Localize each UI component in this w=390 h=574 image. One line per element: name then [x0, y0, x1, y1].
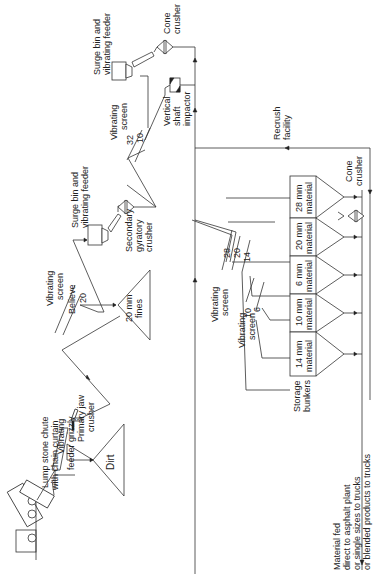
- vsi-label-1: Vertical: [162, 96, 172, 126]
- secondary-label-1: Secondary: [124, 208, 134, 252]
- bunker-28mm: 28 mm material: [294, 182, 314, 214]
- svg-text:20 mm: 20 mm: [294, 222, 304, 250]
- screen2-deck-bottom: 10: [135, 133, 145, 143]
- svg-text:14 mm: 14 mm: [294, 340, 304, 368]
- svg-text:direct to asphalt plant: direct to asphalt plant: [342, 484, 352, 570]
- storage-label-2: bunkers: [302, 379, 312, 412]
- vibrating-screen-4: [246, 278, 264, 310]
- svg-text:10 mm: 10 mm: [294, 298, 304, 326]
- output-note: Material fed direct to asphalt plant or …: [332, 453, 372, 570]
- screen3-deck-2: 20: [232, 248, 242, 258]
- svg-text:material: material: [304, 182, 314, 214]
- surge2-label-1: Surge bin and: [92, 19, 102, 75]
- svg-text:or blended products to trucks: or blended products to trucks: [362, 453, 372, 570]
- svg-text:or single sizes to trucks: or single sizes to trucks: [352, 476, 362, 570]
- bunker-20mm: 20 mm material: [294, 222, 314, 254]
- screen4-label-2: screen: [247, 313, 257, 340]
- svg-text:material: material: [304, 222, 314, 254]
- jaw-label-1: Primary jaw: [76, 394, 86, 442]
- svg-text:material: material: [304, 298, 314, 330]
- screen2-label-1: Vibrating: [109, 105, 119, 140]
- flow-diagram: Dirt Believe 20 Vibrating screen 20 mm f…: [0, 0, 390, 574]
- storage-label-1: Storage: [292, 380, 302, 412]
- lump-chute-label-1: Lump stone chute: [40, 416, 50, 488]
- vertical-shaft-impactor-icon: [170, 78, 180, 92]
- secondary-label-2: gyratory: [134, 219, 144, 252]
- surge2-label-2: vibrating feeder: [102, 13, 112, 75]
- screen3-deck-1: 28: [222, 248, 232, 258]
- fines-label-2: fines: [134, 298, 144, 318]
- cone2-label-2: crusher: [354, 156, 364, 186]
- cone1-label-1: Cone: [162, 12, 172, 34]
- vsi-label-3: impactor: [182, 91, 192, 126]
- svg-text:material: material: [304, 260, 314, 292]
- recrush-label-1: Recrush: [272, 106, 282, 140]
- bunker-14mm: 14 mm material: [294, 340, 314, 372]
- grizzly-label-1: Vibrating: [56, 419, 66, 454]
- surge-bin-1-icon: [88, 214, 121, 245]
- svg-text:material: material: [304, 340, 314, 372]
- screen2-deck-top: 32: [125, 135, 135, 145]
- screen3-label-2: screen: [220, 289, 230, 316]
- cone1-label-2: crusher: [172, 4, 182, 34]
- svg-text:Material fed: Material fed: [332, 523, 342, 570]
- secondary-label-3: crusher: [144, 222, 154, 252]
- recrush-label-2: facility: [282, 114, 292, 140]
- cone-crusher-2-icon: [338, 210, 364, 222]
- screen3-label-1: Vibrating: [210, 287, 220, 322]
- screen1-deck-top: Believe: [67, 284, 77, 314]
- screen1-label-2: screen: [55, 273, 65, 300]
- screen4-deck-bottom: 6: [252, 307, 262, 312]
- cone-crusher-1-icon: [157, 40, 173, 54]
- screen1-label-1: Vibrating: [45, 271, 55, 306]
- svg-text:28 mm: 28 mm: [294, 184, 304, 212]
- bunker-10mm: 10 mm material: [294, 298, 314, 330]
- dirt-label: Dirt: [105, 454, 116, 470]
- cone2-label-1: Cone: [344, 160, 354, 182]
- surge1-label-1: Surge bin and: [70, 172, 80, 228]
- screen3-deck-3: 14: [242, 252, 252, 262]
- svg-text:6 mm: 6 mm: [294, 264, 304, 287]
- vsi-label-2: shaft: [172, 106, 182, 126]
- screen4-label-1: Vibrating: [237, 313, 247, 348]
- surge1-label-2: vibrating feeder: [80, 166, 90, 228]
- screen2-label-2: screen: [119, 103, 129, 130]
- fines-label-1: 20 mm: [124, 294, 134, 322]
- screen1-deck-bottom: 20: [78, 293, 88, 303]
- jaw-label-2: crusher: [86, 402, 96, 432]
- grizzly-label-2: feeder grizzly: [66, 416, 76, 470]
